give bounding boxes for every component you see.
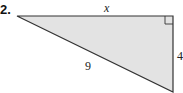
right-triangle — [17, 16, 173, 92]
triangle-figure: 2. x 9 4 — [0, 0, 183, 93]
side-label-x: x — [103, 1, 110, 15]
problem-number: 2. — [0, 2, 11, 17]
side-label-right: 4 — [177, 49, 183, 63]
side-label-hypotenuse: 9 — [85, 59, 91, 73]
